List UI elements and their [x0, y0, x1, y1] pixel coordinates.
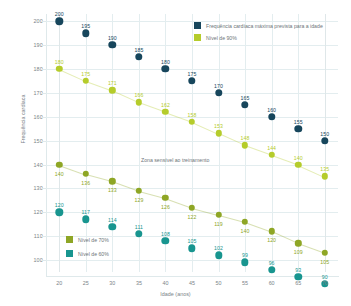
legend-item-level60[interactable]: Nível de 60% [66, 250, 109, 257]
legend-label-level90: Nível de 90% [206, 35, 237, 41]
x-tick-label: 25 [74, 280, 98, 286]
data-point[interactable] [268, 228, 274, 234]
data-point-label: 133 [108, 187, 117, 193]
legend-swatch-level60 [66, 250, 73, 257]
data-point-label: 102 [214, 245, 223, 251]
data-point-label: 150 [320, 131, 329, 137]
data-point[interactable] [83, 171, 89, 177]
data-point[interactable] [82, 29, 89, 36]
data-point[interactable] [188, 244, 195, 251]
legend-label-max-hr: Frequência cardíaca máxima prevista para… [206, 23, 323, 29]
data-point-label: 153 [214, 123, 223, 129]
data-point[interactable] [295, 240, 301, 246]
data-point-label: 111 [135, 224, 143, 230]
data-point[interactable] [56, 17, 63, 24]
y-tick-mark [42, 260, 46, 261]
data-point-label: 148 [241, 135, 250, 141]
data-point-label: 109 [294, 249, 303, 255]
training-zone-annotation: Zona sensível ao treinamento [141, 157, 209, 163]
data-point-label: 140 [294, 155, 303, 161]
data-point[interactable] [215, 211, 221, 217]
gridline-vertical [192, 14, 193, 272]
data-point-label: 180 [55, 59, 64, 65]
legend-swatch-level70 [66, 236, 73, 243]
y-tick-mark [42, 141, 46, 142]
data-point-label: 165 [241, 95, 250, 101]
gridline-vertical [219, 14, 220, 272]
data-point-label: 96 [269, 260, 275, 266]
data-point[interactable] [188, 77, 195, 84]
chart-container: 2001951901851801751701651601551501801751… [0, 0, 351, 306]
data-point[interactable] [162, 65, 169, 72]
data-point[interactable] [82, 216, 89, 223]
data-point[interactable] [268, 113, 275, 120]
x-tick-label: 45 [180, 280, 204, 286]
data-point-label: 175 [188, 71, 197, 77]
data-point[interactable] [109, 178, 115, 184]
gridline-vertical [112, 14, 113, 272]
legend-swatch-max-hr [194, 22, 201, 29]
data-point-label: 144 [267, 145, 276, 151]
data-point-label: 162 [161, 102, 170, 108]
legend-item-level70[interactable]: Nível de 70% [66, 236, 109, 243]
legend-item-level90[interactable]: Nível de 90% [194, 34, 346, 41]
y-tick-mark [42, 165, 46, 166]
data-point-label: 200 [55, 11, 64, 17]
data-point[interactable] [294, 125, 301, 132]
data-point[interactable] [136, 99, 142, 105]
legend-top: Frequência cardíaca máxima prevista para… [194, 22, 346, 46]
y-tick-mark [42, 21, 46, 22]
y-tick-mark [42, 188, 46, 189]
data-point-label: 120 [55, 202, 64, 208]
data-point[interactable] [109, 223, 116, 230]
legend-item-max-hr[interactable]: Frequência cardíaca máxima prevista para… [194, 22, 346, 29]
data-point[interactable] [268, 266, 275, 273]
data-point[interactable] [109, 41, 116, 48]
data-point[interactable] [215, 252, 222, 259]
data-point[interactable] [135, 53, 142, 60]
data-point[interactable] [56, 209, 63, 216]
data-point-label: 135 [320, 166, 329, 172]
data-point[interactable] [241, 101, 248, 108]
data-point[interactable] [162, 237, 169, 244]
plot-area: 2001951901851801751701651601551501801751… [46, 14, 338, 272]
data-point-label: 140 [241, 228, 250, 234]
data-point[interactable] [215, 89, 222, 96]
x-tick-label: 40 [153, 280, 177, 286]
data-point[interactable] [321, 137, 328, 144]
data-point[interactable] [322, 250, 328, 256]
legend-label-level70: Nível de 70% [78, 237, 109, 243]
data-point-label: 136 [81, 180, 90, 186]
x-axis-label: Idade (anos) [0, 291, 351, 297]
data-point-label: 105 [320, 259, 329, 265]
legend-label-level60: Nível de 60% [78, 251, 109, 257]
data-point-label: 129 [134, 197, 143, 203]
data-point[interactable] [136, 188, 142, 194]
y-tick-mark [42, 93, 46, 94]
data-point[interactable] [322, 173, 328, 179]
data-point-label: 171 [108, 80, 117, 86]
data-point-label: 99 [242, 252, 248, 258]
legend-swatch-level90 [194, 34, 201, 41]
data-point-label: 166 [134, 92, 143, 98]
x-tick-label: 65 [286, 280, 310, 286]
data-point-label: 108 [161, 231, 170, 237]
data-point[interactable] [242, 142, 248, 148]
y-tick-mark [42, 236, 46, 237]
data-point[interactable] [241, 259, 248, 266]
y-axis-label: Frequência cardíaca [20, 74, 26, 164]
data-point-label: 175 [81, 71, 90, 77]
x-tick-label: 35 [127, 280, 151, 286]
data-point-label: 190 [108, 35, 117, 41]
data-point-label: 122 [188, 214, 197, 220]
x-tick-label: 55 [233, 280, 257, 286]
gridline-vertical [298, 14, 299, 272]
data-point-label: 195 [81, 23, 90, 29]
data-point-label: 185 [134, 47, 143, 53]
y-tick-mark [42, 69, 46, 70]
data-point-label: 160 [267, 107, 276, 113]
data-point-label: 180 [161, 59, 170, 65]
data-point-label: 170 [214, 83, 223, 89]
data-point[interactable] [215, 130, 221, 136]
data-point[interactable] [268, 152, 274, 158]
